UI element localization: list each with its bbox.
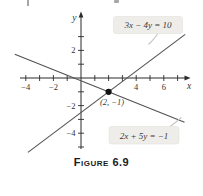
x-tick-label: −2 bbox=[49, 82, 58, 92]
graph-figure: −4 −2 4 6 x 2 −2 −4 y bbox=[0, 0, 203, 154]
y-tick-label: 2 bbox=[71, 45, 75, 55]
line-2x-plus-5y-equals-minus-1 bbox=[15, 54, 185, 122]
intersection-point-label: (2, −1) bbox=[100, 97, 124, 107]
figure-caption: Figure 6.9 bbox=[0, 156, 203, 168]
x-axis: −4 −2 4 6 x bbox=[20, 75, 192, 92]
equation-label-line2: 2x + 5y = −1 bbox=[120, 131, 169, 141]
y-tick-label: −4 bbox=[66, 128, 76, 138]
equation-callout-line2: 2x + 5y = −1 bbox=[109, 118, 182, 145]
x-axis-arrow-icon bbox=[185, 76, 191, 81]
intersection-point bbox=[106, 89, 112, 95]
x-axis-letter: x bbox=[186, 81, 192, 91]
x-tick-label: −4 bbox=[21, 82, 31, 92]
x-tick-label: 6 bbox=[162, 82, 166, 92]
callout-tail bbox=[149, 34, 159, 45]
x-tick-label: 4 bbox=[134, 82, 139, 92]
y-axis-arrow-icon bbox=[79, 12, 84, 18]
y-tick-label: −2 bbox=[66, 101, 75, 111]
equation-callout-line1: 3x − 4y = 10 bbox=[114, 17, 183, 45]
y-axis: 2 −2 −4 y bbox=[66, 12, 84, 150]
y-axis-letter: y bbox=[71, 13, 77, 23]
figure-page: −4 −2 4 6 x 2 −2 −4 y bbox=[0, 0, 203, 196]
equation-label-line1: 3x − 4y = 10 bbox=[123, 20, 172, 30]
